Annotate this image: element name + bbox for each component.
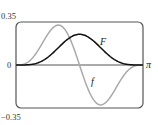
y-tick-zero: 0 [7,60,11,70]
label-f: f [91,76,95,87]
series-F-line [16,34,143,65]
y-tick-top: 0.35 [1,11,16,21]
label-F: F [99,36,107,47]
chart-canvas: 0.35 0 −0.35 π F f [0,0,158,125]
x-tick-pi: π [146,59,152,70]
y-tick-bottom: −0.35 [1,112,21,122]
